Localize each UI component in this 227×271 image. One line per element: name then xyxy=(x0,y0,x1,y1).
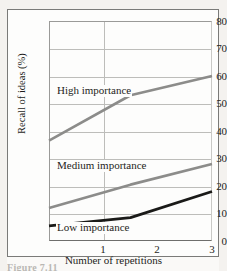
figure-container: Recall of ideas (%) 80 70 60 50 40 30 20… xyxy=(0,0,227,271)
series-label-high-importance: High importance xyxy=(56,85,132,97)
figure-caption-partial: Figure 7.11 xyxy=(7,262,219,271)
series-label-medium-importance: Medium importance xyxy=(56,160,148,172)
series-label-low-importance: Low importance xyxy=(56,222,130,234)
